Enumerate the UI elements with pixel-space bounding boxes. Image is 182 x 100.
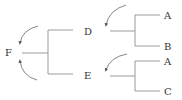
d-rotation-arrow-icon	[106, 5, 126, 25]
f-lower-rotation-arrow-icon	[20, 61, 37, 80]
node-f-group: F	[5, 26, 73, 80]
leaf-c-label: C	[164, 86, 172, 97]
node-f-label: F	[5, 47, 12, 58]
tree-diagram: F D A B E A C	[0, 0, 182, 100]
node-d-group: D A B	[84, 5, 172, 52]
node-e-label: E	[84, 70, 91, 81]
leaf-b-label: B	[164, 41, 171, 52]
e-rotation-arrow-icon	[106, 54, 127, 70]
f-upper-rotation-arrow-icon	[20, 26, 38, 43]
leaf-a-top-label: A	[163, 10, 172, 21]
leaf-a-bottom-label: A	[163, 56, 172, 67]
node-e-group: E A C	[84, 54, 172, 97]
node-d-label: D	[84, 26, 92, 37]
